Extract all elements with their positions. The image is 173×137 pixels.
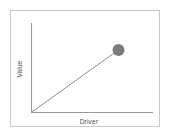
trend-line [32,51,118,113]
y-axis-label: Value [16,60,23,77]
chart-plot-area: Driver Value [11,11,161,128]
x-axis-label: Driver [80,118,99,125]
chart-figure-frame: Driver Value [10,10,160,127]
data-point-marker [113,44,125,56]
